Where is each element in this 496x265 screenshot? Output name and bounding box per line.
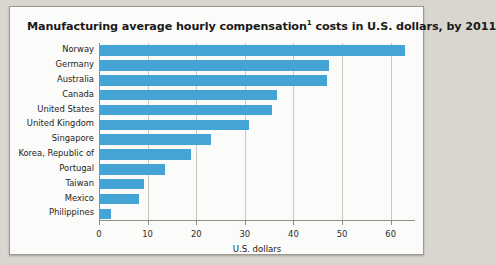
bar	[99, 134, 211, 144]
bar-row: Portugal	[99, 162, 415, 177]
y-category-label: Norway	[62, 43, 94, 56]
y-category-label: Korea, Republic of	[18, 147, 94, 160]
y-category-label: United States	[37, 103, 94, 116]
bar	[99, 45, 405, 55]
bar	[99, 164, 165, 174]
bar-row: Taiwan	[99, 177, 415, 192]
bar-row: United Kingdom	[99, 117, 415, 132]
tick-mark-10	[148, 221, 149, 225]
bar	[99, 179, 144, 189]
bar	[99, 105, 272, 115]
tick-mark-20	[196, 221, 197, 225]
bar	[99, 149, 191, 159]
tick-mark-0	[99, 221, 100, 225]
bar-row: Singapore	[99, 132, 415, 147]
chart-figure: Manufacturing average hourly compensatio…	[9, 6, 424, 255]
y-category-label: Philippines	[49, 206, 94, 219]
bar-row: Canada	[99, 88, 415, 103]
chart-title-main: Manufacturing average hourly compensatio…	[27, 20, 307, 33]
chart-title: Manufacturing average hourly compensatio…	[27, 19, 417, 33]
tick-mark-60	[391, 221, 392, 225]
bar	[99, 120, 249, 130]
bar-row: Norway	[99, 43, 415, 58]
bar-row: Mexico	[99, 192, 415, 207]
x-tick-label: 60	[385, 229, 396, 239]
bar	[99, 194, 139, 204]
y-category-label: United Kingdom	[27, 117, 94, 130]
x-tick-label: 10	[142, 229, 153, 239]
y-category-label: Portugal	[59, 162, 94, 175]
bar	[99, 209, 111, 219]
bar	[99, 90, 277, 100]
tick-mark-50	[342, 221, 343, 225]
x-tick-label: 0	[96, 229, 101, 239]
x-tick-label: 50	[337, 229, 348, 239]
bar-row: Australia	[99, 73, 415, 88]
chart-title-rest: costs in U.S. dollars, by 2011	[312, 20, 496, 33]
x-axis-label: U.S. dollars	[99, 244, 415, 254]
y-category-label: Germany	[56, 58, 95, 71]
y-category-label: Singapore	[52, 132, 94, 145]
bar-row: Germany	[99, 58, 415, 73]
bar	[99, 75, 327, 85]
y-category-label: Canada	[62, 88, 94, 101]
bar-row: Korea, Republic of	[99, 147, 415, 162]
bar-row: Philippines	[99, 206, 415, 221]
x-tick-label: 30	[240, 229, 251, 239]
plot-area: NorwayGermanyAustraliaCanadaUnited State…	[99, 43, 415, 221]
x-tick-label: 40	[288, 229, 299, 239]
y-category-label: Australia	[57, 73, 94, 86]
bar	[99, 60, 329, 70]
y-category-label: Mexico	[65, 192, 94, 205]
tick-mark-30	[245, 221, 246, 225]
x-tick-label: 20	[191, 229, 202, 239]
y-category-label: Taiwan	[66, 177, 94, 190]
tick-mark-40	[293, 221, 294, 225]
bar-row: United States	[99, 103, 415, 118]
